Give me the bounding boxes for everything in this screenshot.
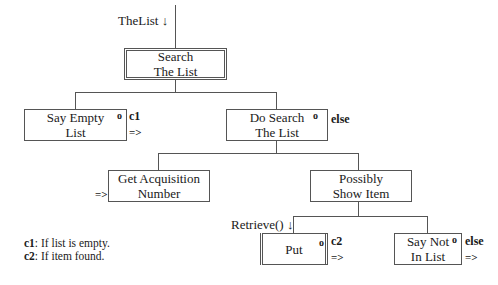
legend-key: c2 <box>24 250 35 262</box>
node-label: List <box>65 125 85 140</box>
condition-label: else <box>465 235 484 248</box>
selection-marker: o <box>117 111 122 121</box>
node-search-the-list[interactable]: Search The List <box>124 48 227 80</box>
selection-marker: o <box>313 111 318 121</box>
node-label: Get Acquisition <box>118 171 200 186</box>
node-label: Say Empty <box>47 110 104 125</box>
node-label: Search <box>158 49 193 64</box>
return-arrow: => <box>95 188 108 200</box>
legend-c2: c2: If item found. <box>24 250 104 263</box>
node-say-empty-list[interactable]: Say Empty List <box>24 109 127 141</box>
node-label: Possibly <box>339 171 383 186</box>
node-possibly-show-item[interactable]: Possibly Show Item <box>310 170 412 202</box>
return-arrow: => <box>129 126 142 138</box>
param-thelist: TheList ↓ <box>118 13 168 28</box>
node-get-acquisition-number[interactable]: Get Acquisition Number <box>108 170 210 202</box>
legend-key: c1 <box>24 237 35 249</box>
condition-label: else <box>331 113 350 126</box>
return-arrow: => <box>465 251 478 263</box>
node-put[interactable]: Put <box>260 233 328 265</box>
condition-label: c1 <box>129 110 140 123</box>
node-label: Do Search <box>250 110 305 125</box>
node-label: The List <box>154 64 198 79</box>
node-label: The List <box>255 125 299 140</box>
selection-marker: o <box>319 238 324 248</box>
return-arrow: => <box>331 251 344 263</box>
structure-chart: TheList ↓ Search The List Say Empty List… <box>0 0 498 285</box>
legend-text: : If list is empty. <box>35 237 110 249</box>
legend-text: : If item found. <box>35 250 105 262</box>
node-label: Number <box>138 186 181 201</box>
condition-label: c2 <box>331 235 342 248</box>
node-label: Show Item <box>333 186 390 201</box>
legend-c1: c1: If list is empty. <box>24 237 110 250</box>
node-label: In List <box>411 249 445 264</box>
node-label: Put <box>285 242 302 257</box>
node-label: Say Not <box>407 234 449 249</box>
param-retrieve: Retrieve() ↓ <box>231 217 293 232</box>
selection-marker: o <box>452 235 457 245</box>
